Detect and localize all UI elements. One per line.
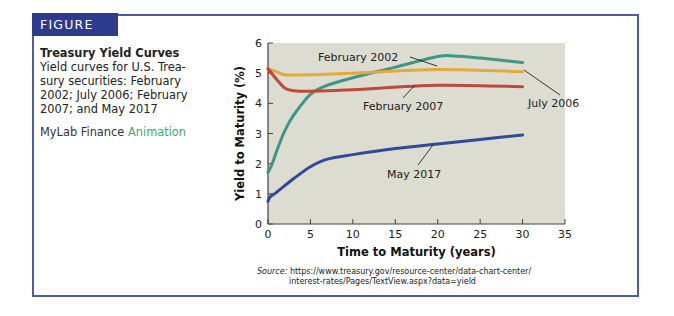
- y-tick-label: 6: [255, 37, 262, 50]
- x-tick-label: 35: [558, 228, 572, 241]
- y-tick-label: 2: [255, 158, 262, 171]
- x-tick-label: 20: [431, 228, 445, 241]
- source-url-line-1: https://www.treasury.gov/resource-center…: [290, 267, 531, 276]
- x-axis-label: Time to Maturity (years): [337, 245, 496, 259]
- x-tick-label: 10: [346, 228, 360, 241]
- label-jul-2006: July 2006: [527, 97, 579, 110]
- x-tick-label: 25: [473, 228, 487, 241]
- source-label: Source:: [257, 267, 287, 276]
- source-url-line-2: interest-rates/Pages/TextView.aspx?data=…: [257, 277, 531, 287]
- y-tick-label: 4: [255, 97, 262, 110]
- y-tick-label: 5: [255, 67, 262, 80]
- x-tick-label: 5: [307, 228, 314, 241]
- x-tick-label: 15: [388, 228, 402, 241]
- label-may-2017: May 2017: [387, 168, 441, 181]
- x-tick-label: 30: [516, 228, 530, 241]
- y-axis-label: Yield to Maturity (%): [233, 66, 247, 202]
- y-tick-label: 1: [255, 188, 262, 201]
- y-tick-label: 3: [255, 128, 262, 141]
- label-feb-2007: February 2007: [363, 100, 443, 113]
- x-tick-label: 0: [265, 228, 272, 241]
- label-feb-2002: February 2002: [318, 51, 398, 64]
- source-note: Source: https://www.treasury.gov/resourc…: [257, 267, 531, 287]
- y-tick-label: 0: [255, 218, 262, 231]
